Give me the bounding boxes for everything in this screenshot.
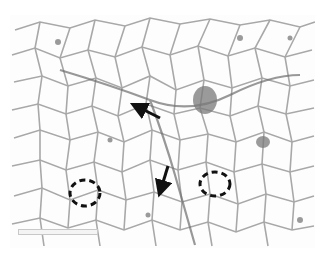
arrow-icon	[161, 166, 168, 189]
arrow-icon	[138, 107, 160, 118]
dashed-circle-marker	[200, 172, 230, 196]
annotations-layer	[10, 15, 315, 248]
dashed-circle-marker	[70, 180, 100, 206]
histology-micrograph	[10, 15, 315, 248]
scale-bar	[18, 229, 98, 235]
